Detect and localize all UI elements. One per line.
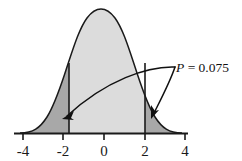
p-symbol: P <box>175 60 184 75</box>
distribution-body-area <box>20 9 182 133</box>
chart-canvas: -4 -2 0 2 4 P = 0.075 <box>0 0 242 161</box>
p-value-annotation: P = 0.075 <box>175 60 229 75</box>
x-tick-label-2: 2 <box>141 143 149 159</box>
x-tick-label-neg2: -2 <box>57 143 70 159</box>
x-tick-label-4: 4 <box>181 143 189 159</box>
x-tick-label-neg4: -4 <box>17 143 30 159</box>
normal-distribution-figure: -4 -2 0 2 4 P = 0.075 <box>0 0 242 161</box>
p-expression: = 0.075 <box>184 60 229 75</box>
leader-line-to-right-tail <box>154 67 175 113</box>
x-tick-label-0: 0 <box>100 143 108 159</box>
